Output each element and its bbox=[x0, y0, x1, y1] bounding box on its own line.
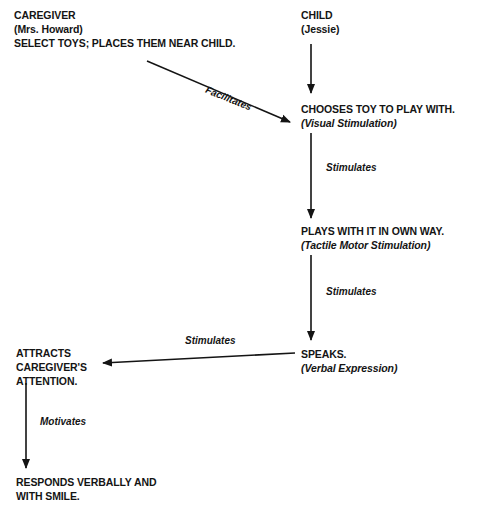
child-node: CHILD (Jessie) bbox=[301, 8, 339, 36]
attracts-line-2: CAREGIVER'S bbox=[16, 360, 87, 374]
plays-sub: (Tactile Motor Stimulation) bbox=[301, 238, 444, 252]
attracts-node: ATTRACTS CAREGIVER'S ATTENTION. bbox=[16, 346, 87, 388]
speaks-sub: (Verbal Expression) bbox=[301, 361, 397, 375]
stimulates-label-2: Stimulates bbox=[326, 286, 377, 297]
motivates-label: Motivates bbox=[40, 416, 86, 427]
child-name: (Jessie) bbox=[301, 22, 339, 36]
speaks-node: SPEAKS. (Verbal Expression) bbox=[301, 347, 397, 375]
chooses-toy-sub: (Visual Stimulation) bbox=[301, 116, 455, 130]
attracts-line-1: ATTRACTS bbox=[16, 346, 87, 360]
speaks-text: SPEAKS. bbox=[301, 347, 397, 361]
chooses-toy-text: CHOOSES TOY TO PLAY WITH. bbox=[301, 102, 455, 116]
stimulates-arrow-3 bbox=[103, 353, 295, 363]
plays-node: PLAYS WITH IT IN OWN WAY. (Tactile Motor… bbox=[301, 224, 444, 252]
plays-text: PLAYS WITH IT IN OWN WAY. bbox=[301, 224, 444, 238]
responds-line-1: RESPONDS VERBALLY AND bbox=[16, 475, 156, 489]
caregiver-title: CAREGIVER bbox=[14, 8, 235, 22]
attracts-line-3: ATTENTION. bbox=[16, 374, 87, 388]
responds-node: RESPONDS VERBALLY AND WITH SMILE. bbox=[16, 475, 156, 503]
caregiver-action: SELECT TOYS; PLACES THEM NEAR CHILD. bbox=[14, 36, 235, 50]
responds-line-2: WITH SMILE. bbox=[16, 489, 156, 503]
chooses-toy-node: CHOOSES TOY TO PLAY WITH. (Visual Stimul… bbox=[301, 102, 455, 130]
caregiver-name: (Mrs. Howard) bbox=[14, 22, 235, 36]
stimulates-label-1: Stimulates bbox=[326, 162, 377, 173]
child-title: CHILD bbox=[301, 8, 339, 22]
caregiver-node: CAREGIVER (Mrs. Howard) SELECT TOYS; PLA… bbox=[14, 8, 235, 50]
stimulates-label-3: Stimulates bbox=[185, 335, 236, 346]
arrows-layer bbox=[0, 0, 482, 514]
